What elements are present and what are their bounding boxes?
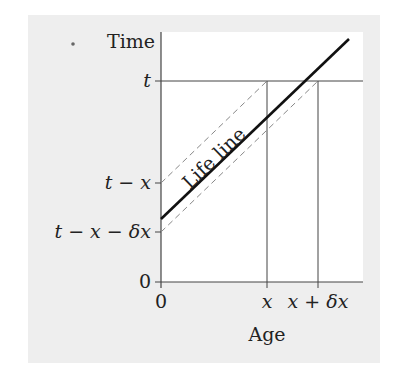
- x-tick-label-x: x: [262, 290, 273, 312]
- y-tick-label-zero: 0: [139, 270, 151, 292]
- y-tick-label-t: t: [143, 69, 151, 91]
- y-tick-label-t-minus-x: t − x: [105, 171, 152, 193]
- stray-dot: [71, 42, 75, 46]
- x-tick-label-zero: 0: [155, 290, 167, 312]
- x-axis-label: Age: [247, 323, 285, 345]
- y-tick-label-t-minus-x-minus-dx: t − x − δx: [54, 220, 151, 242]
- plot-panel: [161, 32, 363, 282]
- lexis-diagram: Life line Time Age t t − x t − x − δx 0 …: [0, 0, 399, 390]
- x-tick-label-x-plus-dx: x + δx: [288, 290, 349, 312]
- y-axis-label: Time: [107, 30, 155, 52]
